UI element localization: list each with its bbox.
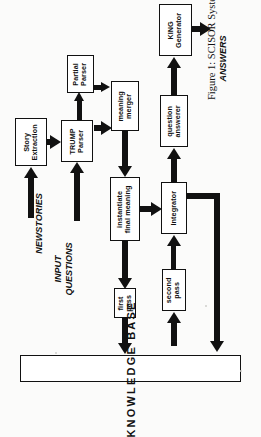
arrow-newstories-to-story-extraction-shaft — [28, 178, 34, 218]
arrow-question-answerer-to-king-generator-shaft — [171, 67, 177, 95]
node-integrator-label: Integrator — [170, 191, 178, 226]
input-label-newstories: NEWSTORIES — [34, 179, 45, 269]
input-label-input-questions-line2: QUESTIONS — [64, 243, 74, 296]
input-label-input-questions: INPUT QUESTIONS — [53, 227, 75, 311]
node-king-generator[interactable]: KING Generator — [159, 4, 192, 56]
node-partial-parser[interactable]: Partial Parser — [67, 55, 94, 93]
arrow-meaning-merger-to-instantiate-shaft — [122, 131, 128, 167]
arrow-input-questions-to-trump-parser-head — [70, 162, 84, 173]
arrow-integrator-to-knowledge-base-vertical — [214, 193, 220, 343]
scan-speckle — [240, 370, 242, 372]
arrow-trump-parser-to-partial-parser-head — [74, 92, 84, 101]
node-story-extraction[interactable]: Story Extraction — [15, 118, 47, 166]
node-trump-parser[interactable]: TRUMP Parser — [61, 120, 93, 162]
scan-speckle — [55, 352, 57, 354]
arrow-story-extraction-to-trump-parser-head — [50, 135, 61, 149]
output-label-answers: ANSWERS — [218, 22, 229, 96]
node-second-pass[interactable]: second pass — [162, 269, 186, 311]
arrow-trump-parser-to-partial-parser-shaft — [77, 101, 82, 120]
scan-speckle — [205, 305, 207, 307]
node-instantiate-final-meaning[interactable]: instantiate final meaning — [110, 177, 140, 241]
node-knowledge-base[interactable]: KNOWLEDGE BASE — [20, 355, 241, 382]
node-second-pass-label: second pass — [166, 277, 183, 303]
figure-caption: Figure 1: SCISOR System Architecture — [206, 0, 217, 100]
node-meaning-merger[interactable]: meaning merger — [111, 81, 139, 131]
node-king-generator-label: KING Generator — [167, 12, 184, 47]
input-label-input-questions-line1: INPUT — [53, 256, 63, 283]
node-knowledge-base-label: KNOWLEDGE BASE — [124, 300, 136, 437]
node-story-extraction-label: Story Extraction — [23, 124, 40, 160]
arrow-instantiate-to-first-pass-shaft — [122, 241, 128, 279]
arrow-newstories-to-story-extraction-head — [24, 167, 38, 178]
node-question-answerer[interactable]: question answerer — [160, 95, 188, 147]
node-integrator[interactable]: Integrator — [161, 182, 187, 234]
arrow-input-questions-to-trump-parser-shaft — [74, 173, 80, 221]
arrow-second-pass-to-integrator-shaft — [171, 245, 176, 269]
node-trump-parser-label: TRUMP Parser — [69, 128, 86, 154]
arrow-integrator-to-question-answerer-shaft — [171, 158, 177, 182]
arrow-knowledge-base-to-second-pass-head — [167, 312, 181, 323]
node-partial-parser-label: Partial Parser — [72, 63, 89, 86]
arrow-question-answerer-to-king-generator-head — [167, 57, 181, 68]
arrow-integrator-to-question-answerer-head — [167, 148, 181, 159]
arrow-partial-parser-to-meaning-merger-head — [101, 82, 110, 92]
arrow-integrator-to-knowledge-base-head — [210, 341, 224, 352]
node-question-answerer-label: question answerer — [166, 105, 183, 137]
arrow-meaning-merger-to-instantiate-head — [118, 166, 132, 177]
node-meaning-merger-label: meaning merger — [117, 91, 134, 121]
arrow-knowledge-base-to-second-pass-shaft — [171, 322, 177, 346]
node-instantiate-final-meaning-label: instantiate final meaning — [117, 185, 134, 233]
arrow-second-pass-to-integrator-head — [167, 235, 181, 246]
